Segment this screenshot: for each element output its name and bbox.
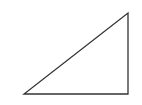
- right-triangle: [24, 13, 128, 94]
- diagram-canvas: [0, 0, 142, 105]
